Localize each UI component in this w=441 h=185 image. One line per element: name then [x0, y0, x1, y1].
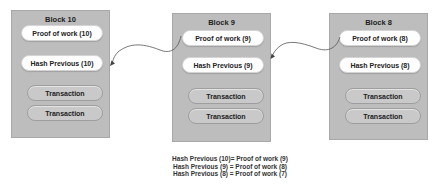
block-title: Block 10: [12, 15, 109, 24]
hash-previous-pill: Hash Previous (9): [182, 57, 264, 73]
proof-of-work-pill: Proof of work (10): [21, 25, 103, 41]
caption-line: Hash Previous (8) = Proof of work (7): [140, 170, 320, 178]
arrowhead-icon: [271, 54, 276, 60]
transaction-pill: Transaction: [345, 88, 421, 104]
block-9: Block 9 Proof of work (9) Hash Previous …: [172, 13, 271, 142]
caption-line: Hash Previous (9) = Proof of work (8): [140, 163, 320, 171]
block-title: Block 8: [330, 18, 427, 27]
proof-of-work-pill: Proof of work (8): [339, 30, 421, 46]
transaction-pill: Transaction: [188, 88, 264, 104]
block-8: Block 8 Proof of work (8) Hash Previous …: [329, 13, 428, 140]
transaction-pill: Transaction: [27, 105, 103, 121]
arrowhead-icon: [110, 61, 115, 67]
transaction-pill: Transaction: [345, 108, 421, 124]
proof-of-work-pill: Proof of work (9): [182, 30, 264, 46]
caption-line: Hash Previous (10)= Proof of work (9): [140, 155, 320, 163]
block-title: Block 9: [173, 18, 270, 27]
transaction-pill: Transaction: [27, 85, 103, 101]
block-10: Block 10 Proof of work (10) Hash Previou…: [11, 10, 110, 138]
hash-previous-pill: Hash Previous (10): [21, 55, 103, 71]
hash-relation-caption: Hash Previous (10)= Proof of work (9) Ha…: [140, 155, 320, 178]
transaction-pill: Transaction: [188, 108, 264, 124]
arrow-block9-to-block10: [110, 36, 181, 66]
hash-previous-pill: Hash Previous (8): [339, 57, 421, 73]
